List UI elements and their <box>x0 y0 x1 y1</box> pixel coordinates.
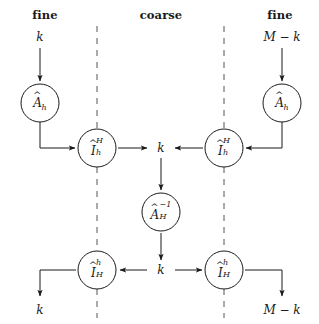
node-label-I-hat-H-h-left: ^IhH <box>91 263 103 279</box>
column-header-fine-left: fine <box>32 10 57 22</box>
hat-accent-icon: ^ <box>150 202 158 212</box>
column-header-coarse: coarse <box>140 10 183 22</box>
input-label-left: k <box>36 31 43 43</box>
arrow-IHh-right-to-output <box>245 270 282 296</box>
input-label-right: M − k <box>263 31 300 43</box>
node-label-I-hat-h-H-right: ^IHh <box>218 141 230 157</box>
arrow-Ah-to-IhH-left <box>40 122 75 148</box>
flow-arrows <box>40 48 282 296</box>
node-label-I-hat-H-h-right: ^IhH <box>218 263 230 279</box>
output-label-right: M − k <box>263 304 300 316</box>
node-label-A-hat-h-left: ^Ah <box>33 97 46 112</box>
arrow-IHh-left-to-output <box>40 270 76 296</box>
hat-accent-icon: ^ <box>33 90 41 100</box>
center-label-top-k: k <box>157 142 164 154</box>
multigrid-flow-diagram: fine coarse fine k M − k k k k M − k ^Ah… <box>0 0 319 324</box>
column-header-fine-right: fine <box>267 10 292 22</box>
node-label-A-hat-H-inv: ^A−1H <box>151 205 172 221</box>
arrow-Ah-to-IhH-right <box>246 122 282 148</box>
node-label-I-hat-h-H-left: ^IHh <box>91 141 103 157</box>
node-label-A-hat-h-right: ^Ah <box>275 97 288 112</box>
center-label-bottom-k: k <box>157 264 164 276</box>
hat-accent-icon: ^ <box>275 90 283 100</box>
output-label-left: k <box>36 304 43 316</box>
